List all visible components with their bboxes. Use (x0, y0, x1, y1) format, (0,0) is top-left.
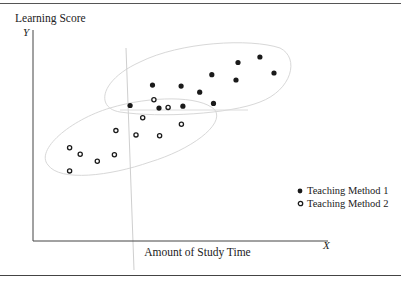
data-point-method-2 (158, 134, 162, 138)
x-axis-label-text: Amount of Study Time (144, 246, 250, 258)
legend-label-method-2: Teaching Method 2 (307, 198, 389, 211)
data-point-method-2 (95, 159, 99, 163)
data-point-method-2 (68, 146, 72, 150)
data-point-method-1 (179, 84, 184, 89)
data-point-method-1 (211, 101, 216, 106)
legend-label-method-1: Teaching Method 1 (307, 185, 389, 198)
ellipse-method-1 (105, 43, 291, 115)
data-point-method-2 (78, 152, 82, 156)
data-point-method-1 (235, 60, 240, 65)
data-point-method-1 (209, 72, 214, 77)
data-point-method-2 (114, 129, 118, 133)
legend-item-method-1: Teaching Method 1 (296, 185, 389, 198)
data-point-method-1 (150, 83, 155, 88)
data-point-method-2 (141, 116, 145, 120)
data-point-method-2 (68, 169, 72, 173)
filled-circle-icon (296, 188, 304, 194)
data-point-method-1 (257, 54, 262, 59)
data-point-method-1 (156, 106, 161, 111)
bottom-rule (0, 275, 401, 276)
legend: Teaching Method 1 Teaching Method 2 (296, 185, 389, 210)
scatter-plot (0, 0, 401, 281)
data-point-method-2 (179, 122, 183, 126)
legend-item-method-2: Teaching Method 2 (296, 198, 389, 211)
data-point-method-1 (233, 77, 238, 82)
x-axis-label: Amount of Study Time (0, 246, 401, 258)
data-points (68, 54, 277, 173)
data-point-method-2 (152, 98, 156, 102)
data-point-method-1 (128, 103, 133, 108)
data-point-method-1 (271, 70, 276, 75)
data-point-method-2 (134, 133, 138, 137)
vertical-reference-line (126, 48, 134, 270)
data-point-method-1 (180, 104, 185, 109)
data-point-method-2 (166, 105, 170, 109)
data-point-method-1 (197, 90, 202, 95)
data-point-method-2 (112, 153, 116, 157)
open-circle-icon (296, 200, 304, 207)
